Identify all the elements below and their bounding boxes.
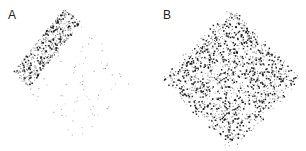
panel-b: B xyxy=(153,0,306,151)
panel-b-dot-image xyxy=(153,0,306,151)
panel-a-dot-image xyxy=(0,0,153,151)
panel-a: A xyxy=(0,0,153,151)
